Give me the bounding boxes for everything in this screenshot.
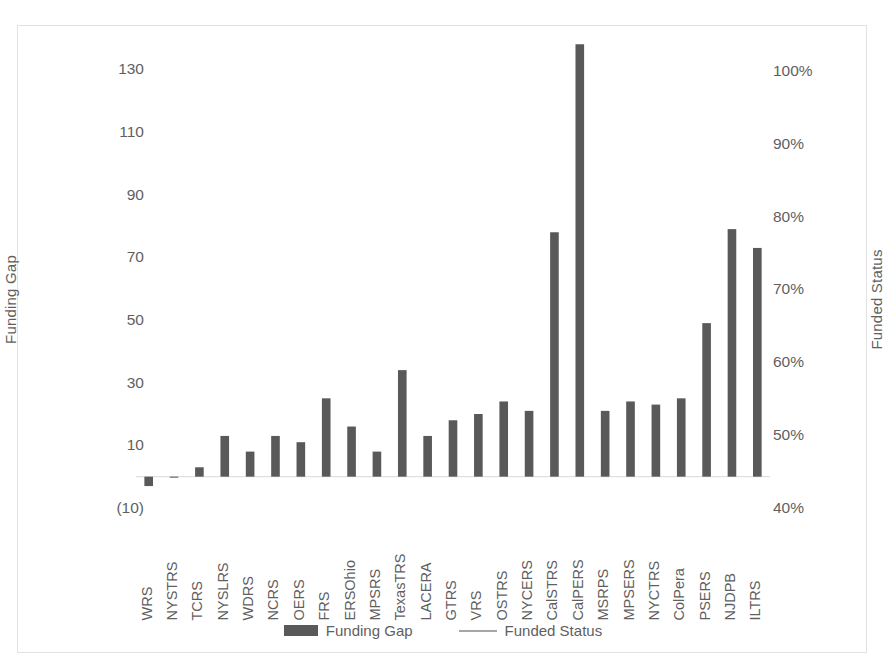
x-axis-label-msrps: MSRPS <box>596 568 611 620</box>
bar-wdrs[interactable] <box>246 452 255 477</box>
y-axis-right-tick-label: 70% <box>773 281 804 297</box>
bar-calpers[interactable] <box>575 44 584 476</box>
bar-iltrs[interactable] <box>753 248 762 477</box>
y-axis-right-tick-label: 80% <box>773 209 804 225</box>
bar-lacera[interactable] <box>423 436 432 477</box>
x-axis-label-mpsers: MPSERS <box>621 559 636 620</box>
bar-nyslrs[interactable] <box>220 436 229 477</box>
bar-ostrs[interactable] <box>499 401 508 476</box>
bar-mpsrs[interactable] <box>373 452 382 477</box>
line-swatch-icon <box>459 630 497 632</box>
y-axis-right-tick-label: 60% <box>773 354 804 370</box>
y-axis-right-tick-label: 100% <box>773 63 813 79</box>
bar-msrps[interactable] <box>601 411 610 477</box>
legend-item-funding-gap[interactable]: Funding Gap <box>284 622 413 639</box>
y-axis-right-tick-label: 90% <box>773 136 804 152</box>
bar-nycers[interactable] <box>525 411 534 477</box>
x-axis-label-wdrs: WDRS <box>241 576 256 620</box>
x-axis-label-nycers: NYCERS <box>520 560 535 620</box>
bar-nystrs[interactable] <box>170 477 179 478</box>
y-axis-right-tick-label: 50% <box>773 427 804 443</box>
bar-vrs[interactable] <box>474 414 483 477</box>
legend-item-funded-status[interactable]: Funded Status <box>459 622 603 639</box>
chart-svg <box>136 38 770 508</box>
x-axis-label-mpsrs: MPSRS <box>367 568 382 620</box>
bar-psers[interactable] <box>702 323 711 477</box>
x-axis-label-lacera: LACERA <box>418 562 433 620</box>
legend-label-funded-status: Funded Status <box>505 622 603 639</box>
bar-tcrs[interactable] <box>195 467 204 476</box>
bar-oers[interactable] <box>297 442 306 476</box>
chart-legend: Funding Gap Funded Status <box>18 622 868 639</box>
legend-label-funding-gap: Funding Gap <box>326 622 413 639</box>
x-axis-label-ersohio: ERSOhio <box>342 560 357 620</box>
chart-container: Funding Gap Funded Status 13011090705030… <box>17 25 867 653</box>
x-axis-label-colpera: ColPera <box>672 568 687 620</box>
bar-frs[interactable] <box>322 398 331 476</box>
x-axis-label-texastrs: TexasTRS <box>393 553 408 620</box>
y-axis-right-ticks: 100%90%80%70%60%50%40% <box>773 26 833 654</box>
bar-wrs[interactable] <box>144 477 153 486</box>
x-axis-label-iltrs: ILTRS <box>748 580 763 620</box>
x-axis-label-wrs: WRS <box>139 586 154 620</box>
x-axis-label-frs: FRS <box>317 591 332 620</box>
bar-texastrs[interactable] <box>398 370 407 477</box>
bar-ncrs[interactable] <box>271 436 280 477</box>
x-axis-label-oers: OERS <box>291 579 306 620</box>
x-axis-label-nystrs: NYSTRS <box>165 561 180 620</box>
y-axis-right-title: Funded Status <box>867 249 884 349</box>
x-axis-label-calstrs: CalSTRS <box>545 560 560 620</box>
x-axis-label-ostrs: OSTRS <box>494 570 509 620</box>
x-axis-label-nyctrs: NYCTRS <box>646 560 661 620</box>
bar-ersohio[interactable] <box>347 427 356 477</box>
bar-nyctrs[interactable] <box>652 405 661 477</box>
x-axis-label-psers: PSERS <box>697 571 712 620</box>
x-axis-label-njdpb: NJDPB <box>722 572 737 620</box>
x-axis-label-tcrs: TCRS <box>190 581 205 620</box>
x-axis-label-nyslrs: NYSLRS <box>215 562 230 620</box>
bar-swatch-icon <box>284 625 318 636</box>
x-axis-label-calpers: CalPERS <box>570 559 585 620</box>
bar-gtrs[interactable] <box>449 420 458 476</box>
bar-colpera[interactable] <box>677 398 686 476</box>
x-axis-category-labels: WRSNYSTRSTCRSNYSLRSWDRSNCRSOERSFRSERSOhi… <box>136 510 770 620</box>
y-axis-right-tick-label: 40% <box>773 500 804 516</box>
bar-njdpb[interactable] <box>728 229 737 477</box>
bar-calstrs[interactable] <box>550 232 559 476</box>
x-axis-label-ncrs: NCRS <box>266 579 281 620</box>
y-axis-left-title: Funding Gap <box>2 255 19 344</box>
bar-mpsers[interactable] <box>626 401 635 476</box>
x-axis-label-gtrs: GTRS <box>444 580 459 620</box>
plot-area <box>136 38 770 508</box>
x-axis-label-vrs: VRS <box>469 590 484 620</box>
